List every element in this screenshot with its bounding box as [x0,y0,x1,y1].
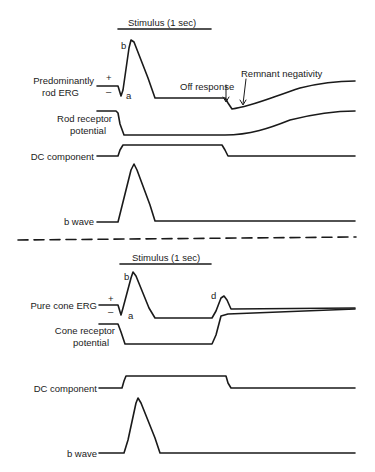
remnant-negativity-label: Remnant negativity [241,68,322,79]
b-wave-marker-top: b [121,40,126,51]
plus-marker-top: + [106,72,112,83]
plus-marker-bottom: + [108,293,114,304]
b-wave-trace-bottom [99,398,355,453]
minus-marker-bottom: – [108,306,113,317]
b-wave-trace-top [97,164,355,222]
rod-receptor-label-line1: Rod receptor [12,113,112,124]
rod-erg-label-line2: rod ERG [12,87,79,98]
cone-erg-label: Pure cone ERG [12,300,97,311]
off-response-label: Off response [180,81,234,92]
cone-receptor-label-line1: Cone receptor [12,325,115,336]
panel-separator [18,237,356,240]
stimulus-label-top: Stimulus (1 sec) [128,17,196,28]
stimulus-label-bottom: Stimulus (1 sec) [132,252,200,263]
minus-marker-top: – [106,86,111,97]
rod-erg-label-line1: Predominantly [12,75,94,86]
cone-receptor-trace [99,309,355,344]
dc-component-label-bottom: DC component [12,383,97,394]
b-wave-marker-bottom: b [124,271,129,282]
a-wave-marker-bottom: a [128,310,133,321]
rod-receptor-trace [97,111,355,135]
a-wave-marker-top: a [126,90,131,101]
b-wave-label-top: b wave [12,216,94,227]
dc-component-trace-top [97,145,355,156]
dc-component-trace-bottom [99,376,355,388]
d-wave-marker: d [211,290,216,301]
cone-receptor-label-line2: potential [12,337,109,348]
dc-component-label-top: DC component [12,151,94,162]
b-wave-label-bottom: b wave [12,448,97,459]
rod-receptor-label-line2: potential [12,125,106,136]
